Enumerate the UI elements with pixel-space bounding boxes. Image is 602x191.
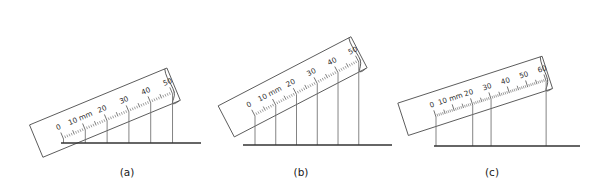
figure-canvas: 010 mm20304050(a)010 mm20304050(b)010 mm… [0,0,602,191]
panel-b: 010 mm20304050 [218,37,392,145]
panel-a: 010 mm20304050 [30,68,201,157]
three-panel-ruler-diagram: 010 mm20304050(a)010 mm20304050(b)010 mm… [0,0,602,191]
panel-caption-c: (c) [485,166,499,178]
panel-c: 010 mm2030405060 [398,56,580,146]
panel-caption-b: (b) [294,166,309,178]
panel-caption-a: (a) [120,166,135,178]
ruler-body-c [398,56,553,135]
